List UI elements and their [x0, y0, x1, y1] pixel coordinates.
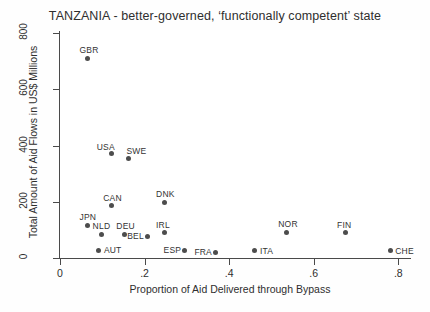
y-axis-line [59, 31, 60, 259]
data-point-label-swe: SWE [127, 146, 147, 156]
data-point-nor [284, 230, 289, 235]
y-tick-mark [53, 202, 59, 203]
data-point-label-dnk: DNK [156, 189, 175, 199]
scatter-plot-figure: TANZANIA - better-governed, ‘functionall… [0, 0, 430, 312]
y-tick-label: 0 [18, 232, 29, 282]
x-axis-title: Proportion of Aid Delivered through Bypa… [60, 283, 400, 295]
x-tick-label: .2 [130, 267, 160, 279]
data-point-label-fin: FIN [337, 220, 351, 230]
data-point-label-bel: BEL [127, 231, 144, 241]
x-tick-mark [229, 259, 230, 265]
x-tick-mark [60, 259, 61, 265]
data-point-swe [126, 156, 131, 161]
data-point-label-usa: USA [97, 142, 115, 152]
x-tick-mark [398, 259, 399, 265]
y-tick-mark [53, 33, 59, 34]
x-tick-label: 0 [45, 267, 75, 279]
data-point-label-che: CHE [395, 246, 414, 256]
data-point-label-fra: FRA [194, 247, 212, 257]
data-point-label-esp: ESP [164, 245, 182, 255]
data-point-label-aut: AUT [104, 245, 122, 255]
data-point-fra [213, 250, 218, 255]
y-axis-title: Total Amount of Aid Flows in US$ Million… [27, 27, 39, 257]
data-point-label-nld: NLD [93, 221, 111, 231]
x-tick-mark [145, 259, 146, 265]
x-tick-label: .8 [383, 267, 413, 279]
data-point-label-can: CAN [103, 193, 122, 203]
data-point-dnk [162, 200, 167, 205]
x-tick-label: .6 [299, 267, 329, 279]
data-point-label-nor: NOR [278, 219, 298, 229]
y-tick-label: 800 [18, 7, 29, 57]
y-tick-mark [53, 89, 59, 90]
y-tick-label: 200 [18, 175, 29, 225]
y-tick-label: 400 [18, 119, 29, 169]
y-tick-label: 600 [18, 63, 29, 113]
data-point-label-irl: IRL [156, 220, 170, 230]
y-tick-mark [53, 258, 59, 259]
x-tick-label: .4 [214, 267, 244, 279]
data-point-label-gbr: GBR [80, 45, 99, 55]
data-point-nld [99, 232, 104, 237]
data-point-label-ita: ITA [260, 246, 273, 256]
x-tick-mark [314, 259, 315, 265]
chart-title: TANZANIA - better-governed, ‘functionall… [0, 9, 430, 23]
data-point-esp [182, 248, 187, 253]
x-axis-line [59, 258, 411, 259]
data-point-label-deu: DEU [116, 221, 135, 231]
y-tick-mark [53, 146, 59, 147]
